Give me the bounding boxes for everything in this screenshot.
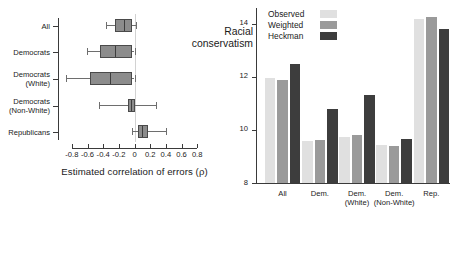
box-plot-whisker-cap (87, 48, 88, 55)
box-plot-x-tick (182, 144, 183, 148)
bar-chart-y-axis-label-line: conservatism (192, 38, 253, 50)
box-plot-x-tick-label: 0.2 (145, 151, 156, 160)
bar-chart-y-tick-label: 12 (240, 72, 248, 81)
bar-chart-group-label: Rep. (423, 189, 439, 198)
bar-chart-y-tick-label: 10 (240, 125, 248, 134)
box-plot-x-tick (150, 144, 151, 148)
bar-chart-group-label-line: All (278, 189, 286, 198)
bar-chart-group-label-line: Rep. (423, 189, 439, 198)
bar-chart-y-tick (252, 24, 257, 25)
bar-chart-legend-swatch (320, 10, 337, 18)
box-plot-median-line (131, 100, 132, 111)
bar-chart-bar (401, 139, 412, 183)
box-plot-x-tick (88, 144, 89, 148)
box-plot-box (0, 71, 226, 87)
bar-chart-bar (277, 80, 288, 183)
box-plot-x-tick-label: 0.4 (161, 151, 172, 160)
bar-chart-y-tick (252, 130, 257, 131)
box-plot-whisker-cap (132, 128, 133, 135)
box-plot-whisker-cap (136, 22, 137, 29)
box-plot-whisker (132, 131, 166, 132)
box-plot-box (0, 124, 226, 140)
box-plot-median-line (124, 20, 125, 31)
bar-chart-y-axis-label-line: Racial (192, 26, 253, 38)
bar-chart-y-tick (252, 77, 257, 78)
bar-chart-bar (290, 64, 301, 183)
box-plot-x-tick (72, 144, 73, 148)
bar-chart-bar (389, 146, 400, 183)
bar-chart-legend-item: Observed (268, 9, 348, 19)
bar-chart-group-label: Dem.(Non-White) (374, 189, 415, 207)
box-plot-x-tick (197, 144, 198, 148)
bar-chart-bar (265, 78, 276, 183)
box-plot-median-line (142, 126, 143, 137)
bar-chart-legend-item: Weighted (268, 20, 348, 30)
box-plot-whisker-cap (135, 75, 136, 82)
box-plot-x-tick-label: 0.6 (176, 151, 187, 160)
box-plot-whisker-cap (166, 128, 167, 135)
bar-chart-bar (414, 19, 425, 183)
bar-chart-group-label-line: (Non-White) (374, 198, 415, 207)
box-plot-x-axis-line (72, 148, 197, 149)
box-plot-x-tick (166, 144, 167, 148)
box-plot-x-tick (103, 144, 104, 148)
box-plot-whisker-cap (99, 102, 100, 109)
bar-chart-group-label: Dem. (311, 189, 329, 198)
bar-chart-bar (352, 135, 363, 183)
bar-chart-bar (376, 145, 387, 183)
bar-chart-group-label-line: (White) (345, 198, 369, 207)
bar-chart-group-label: Dem.(White) (345, 189, 369, 207)
bar-chart-legend-label: Heckman (268, 31, 303, 41)
box-plot-whisker-cap (66, 75, 67, 82)
bar-chart-bar (315, 140, 326, 183)
bar-chart-legend-swatch (320, 32, 337, 40)
box-plot-x-tick-label: -0.4 (97, 151, 110, 160)
bar-chart-bar (364, 95, 375, 183)
box-plot-x-tick (135, 144, 136, 148)
bar-chart-legend-item: Heckman (268, 31, 348, 41)
bar-chart-bar (426, 17, 437, 183)
box-plot-whisker-cap (135, 48, 136, 55)
bar-chart-group-label: All (278, 189, 286, 198)
box-plot-median-line (110, 73, 111, 84)
box-plot-iqr-box (100, 45, 132, 58)
bar-chart-x-axis-line (256, 183, 450, 184)
bar-chart-y-tick-label: 8 (244, 179, 248, 188)
box-plot-whisker-cap (106, 22, 107, 29)
box-plot-whisker-cap (156, 102, 157, 109)
figure-two-panel: AllDemocratsDemocrats(White)Democrats(No… (0, 0, 452, 260)
bar-chart-group-label-line: Dem. (345, 189, 369, 198)
bar-chart-bar (339, 137, 350, 183)
panel-bar-chart: 8101214 AllDem.Dem.(White)Dem.(Non-White… (226, 0, 452, 260)
bar-chart-legend-swatch (320, 21, 337, 29)
bar-chart-legend-label: Weighted (268, 20, 303, 30)
box-plot-x-tick-label: -0.2 (112, 151, 125, 160)
box-plot-x-axis-label: Estimated correlation of errors (ρ) (61, 166, 208, 177)
box-plot-x-tick-label: -0.8 (65, 151, 78, 160)
bar-chart-y-axis-spine (256, 8, 257, 183)
box-plot-x-tick (119, 144, 120, 148)
bar-chart-group-label-line: Dem. (374, 189, 415, 198)
box-plot-median-line (115, 46, 116, 57)
bar-chart-legend-label: Observed (268, 9, 304, 19)
box-plot-x-tick-label: 0 (132, 151, 136, 160)
bar-chart-bar (439, 29, 450, 183)
bar-chart-bar (327, 109, 338, 183)
box-plot-x-tick-label: 0.8 (192, 151, 203, 160)
box-plot-x-tick-label: -0.6 (81, 151, 94, 160)
bar-chart-y-axis-label: Racialconservatism (192, 26, 253, 51)
box-plot-box (0, 98, 226, 114)
bar-chart-group-label-line: Dem. (311, 189, 329, 198)
bar-chart-bar (302, 141, 313, 183)
